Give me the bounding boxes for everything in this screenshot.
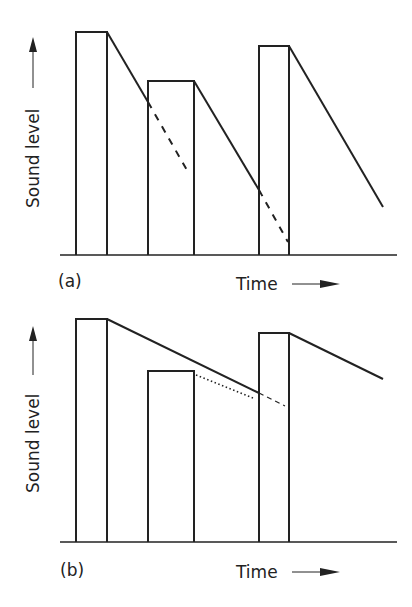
x-arrowhead-icon-b [320,568,340,576]
decay-1-extrapolated-b [259,393,285,406]
y-arrowhead-icon-a [29,37,37,52]
pulse-2-a [148,81,194,255]
pulse-2-b [148,371,194,542]
pulse-3-b [259,333,289,542]
decay-1-a [107,32,148,102]
panel-label-b: (b) [60,560,84,580]
x-arrowhead-icon-a [320,280,340,288]
panel-label-a: (a) [58,271,82,291]
decay-3-a [289,46,383,207]
pulse-1-a [76,32,107,255]
decay-3-b [289,333,383,379]
reverberation-diagram [0,0,412,607]
decay-1-b [107,319,259,393]
y-axis-label-b: Sound level [23,397,43,493]
x-axis-label-b: Time [236,562,278,582]
y-arrowhead-icon-b [29,326,37,341]
y-axis-label-a: Sound level [23,112,43,208]
decay-2-extrapolated-a [259,190,288,242]
x-axis-label-a: Time [236,274,278,294]
decay-2-a [194,81,259,190]
pulse-1-b [76,319,107,542]
decay-1-extrapolated-a [148,102,188,172]
pulse-3-a [259,46,289,255]
